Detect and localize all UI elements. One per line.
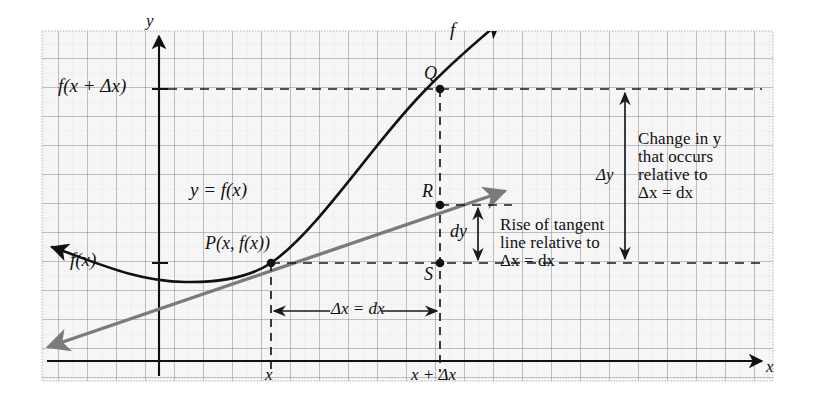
label-f-of-x: f(x) <box>70 250 96 270</box>
change-in-y-note-line-4: Δx = dx <box>638 184 721 202</box>
label-point-r: R <box>422 182 433 201</box>
label-delta-y: Δy <box>596 166 614 184</box>
point-p-dot <box>267 259 276 268</box>
differentials-diagram <box>0 0 816 406</box>
x-axis-label: x <box>766 358 774 376</box>
label-x-plus-delta-x-tick: x + Δx <box>411 366 456 384</box>
point-q-dot <box>436 85 445 94</box>
tangent-note-line-2: line relative to <box>500 234 604 252</box>
tangent-note-line-3: Δx = dx <box>500 252 604 270</box>
label-curve-name-f: f <box>450 20 455 40</box>
annotation-tangent-note: Rise of tangent line relative to Δx = dx <box>500 216 604 270</box>
label-dy: dy <box>450 222 467 241</box>
annotation-change-in-y-note: Change in y that occurs relative to Δx =… <box>638 130 721 201</box>
change-in-y-note-line-2: that occurs <box>638 148 721 166</box>
figure-page: y x f(x + Δx) f(x) y = f(x) f P(x, f(x))… <box>0 0 816 406</box>
label-point-s: S <box>424 265 433 284</box>
tangent-note-line-1: Rise of tangent <box>500 216 604 234</box>
change-in-y-note-line-1: Change in y <box>638 130 721 148</box>
point-s-dot <box>436 259 445 268</box>
label-f-x-plus-delta-x: f(x + Δx) <box>58 76 126 96</box>
point-r-dot <box>436 201 445 210</box>
change-in-y-note-line-3: relative to <box>638 166 721 184</box>
major-gridlines <box>42 31 773 381</box>
label-curve-equation: y = f(x) <box>190 180 247 200</box>
y-axis-label: y <box>146 12 154 30</box>
label-point-p: P(x, f(x)) <box>205 234 270 253</box>
label-delta-x-equals-dx-bracket: Δx = dx <box>331 300 385 318</box>
label-x-tick: x <box>265 366 273 384</box>
label-point-q: Q <box>424 64 437 83</box>
